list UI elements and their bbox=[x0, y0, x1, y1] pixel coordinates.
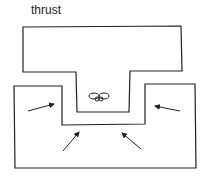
arrow-bottom-left bbox=[63, 132, 79, 151]
diagram-canvas bbox=[0, 0, 205, 183]
arrow-right bbox=[155, 106, 180, 111]
specimen-icon bbox=[89, 93, 109, 101]
arrow-bottom-right bbox=[122, 133, 141, 149]
arrow-left bbox=[28, 104, 54, 111]
lower-u-block bbox=[14, 84, 196, 168]
